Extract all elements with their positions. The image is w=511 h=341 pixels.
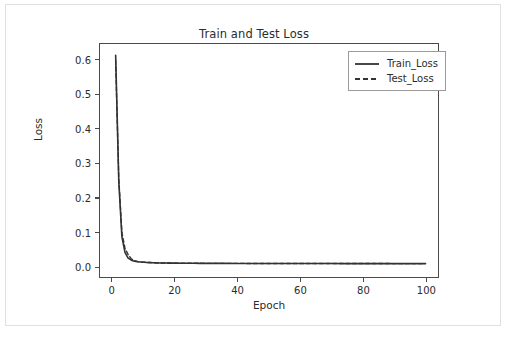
legend-line-dashed-icon: [354, 74, 380, 84]
legend-line-solid-icon: [354, 59, 380, 69]
x-tick-label: 40: [218, 285, 258, 296]
x-tick-mark: [111, 278, 112, 282]
y-axis-label: Loss: [32, 118, 44, 141]
legend-item-test-loss[interactable]: Test_Loss: [354, 71, 438, 86]
y-tick-label: 0.0: [57, 262, 91, 273]
x-tick-mark: [363, 278, 364, 282]
y-tick-label: 0.1: [57, 227, 91, 238]
y-tick-label: 0.3: [57, 158, 91, 169]
x-tick-label: 20: [155, 285, 195, 296]
chart-legend[interactable]: Train_Loss Test_Loss: [348, 51, 446, 91]
y-tick-label: 0.4: [57, 123, 91, 134]
plot-area: Train_Loss Test_Loss: [99, 43, 439, 278]
chart-title: Train and Test Loss: [6, 27, 502, 41]
x-tick-label: 0: [92, 285, 132, 296]
y-tick-label: 0.2: [57, 193, 91, 204]
legend-label-train-loss: Train_Loss: [387, 58, 438, 69]
x-tick-mark: [300, 278, 301, 282]
legend-item-train-loss[interactable]: Train_Loss: [354, 56, 438, 71]
y-tick-label: 0.6: [57, 54, 91, 65]
y-tick-label: 0.5: [57, 89, 91, 100]
x-tick-label: 100: [406, 285, 446, 296]
x-tick-label: 60: [280, 285, 320, 296]
x-tick-label: 80: [343, 285, 383, 296]
x-tick-mark: [237, 278, 238, 282]
x-axis-label: Epoch: [99, 299, 439, 311]
x-tick-mark: [174, 278, 175, 282]
figure-canvas: Train and Test Loss Loss Epoch 0.00.10.2…: [5, 4, 501, 326]
x-tick-mark: [426, 278, 427, 282]
legend-label-test-loss: Test_Loss: [387, 73, 434, 84]
